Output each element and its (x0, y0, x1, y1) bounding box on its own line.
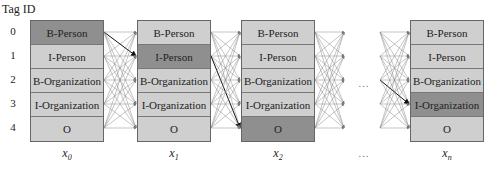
cell-b-person: B-Person (138, 21, 210, 45)
cell-i-organization: I-Organization (411, 93, 483, 117)
cell-b-organization: B-Organization (242, 69, 314, 93)
cell-b-organization: B-Organization (411, 69, 483, 93)
x-label-1: x1 (137, 146, 211, 162)
cell-i-person: I-Person (31, 45, 103, 69)
cell-i-organization: I-Organization (31, 93, 103, 117)
ellipsis-middle: … (358, 77, 370, 89)
column-xn: B-Person I-Person B-Organization I-Organ… (410, 20, 484, 142)
cell-b-person: B-Person (31, 21, 103, 45)
x-label-2: x2 (241, 146, 315, 162)
column-x2: B-Person I-Person B-Organization I-Organ… (241, 20, 315, 142)
ellipsis-bottom: … (358, 147, 370, 159)
cell-i-organization: I-Organization (138, 93, 210, 117)
cell-i-person: I-Person (411, 45, 483, 69)
column-x1: B-Person I-Person B-Organization I-Organ… (137, 20, 211, 142)
cell-b-person: B-Person (411, 21, 483, 45)
cell-i-person: I-Person (138, 45, 210, 69)
column-x0: B-Person I-Person B-Organization I-Organ… (30, 20, 104, 142)
cell-b-person: B-Person (242, 21, 314, 45)
cell-o: O (411, 117, 483, 141)
cell-o: O (138, 117, 210, 141)
cell-o: O (242, 117, 314, 141)
cell-i-organization: I-Organization (242, 93, 314, 117)
cell-i-person: I-Person (242, 45, 314, 69)
x-label-0: x0 (30, 146, 104, 162)
cell-b-organization: B-Organization (138, 69, 210, 93)
cell-b-organization: B-Organization (31, 69, 103, 93)
x-label-n: xn (410, 146, 484, 162)
cell-o: O (31, 117, 103, 141)
